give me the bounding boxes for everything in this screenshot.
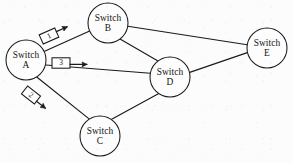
edge-b-d <box>120 39 158 61</box>
edge-b-e <box>128 26 247 45</box>
packet-1-arrow-head <box>62 24 69 31</box>
node-switch-c[interactable] <box>80 116 120 156</box>
node-switch-b[interactable] <box>88 3 128 43</box>
edge-c-d <box>111 94 159 120</box>
edge-d-e <box>190 53 248 73</box>
packet-1-group[interactable] <box>39 23 70 44</box>
packet-1-box <box>39 28 59 44</box>
packet-2-group[interactable] <box>21 86 49 111</box>
edge-group <box>37 26 248 119</box>
packet-3-box <box>52 58 70 68</box>
diagram-svg <box>0 0 293 163</box>
node-switch-d[interactable] <box>150 57 190 97</box>
packet-2-box <box>21 86 40 104</box>
packet-3-arrow-head <box>82 62 87 67</box>
packet-3-group[interactable] <box>52 58 87 68</box>
edge-a-c <box>37 77 90 119</box>
node-group <box>6 3 287 156</box>
node-switch-e[interactable] <box>247 28 287 68</box>
node-switch-a[interactable] <box>6 40 46 80</box>
network-diagram-canvas: Switch A Switch B Switch C Switch D Swit… <box>0 0 293 163</box>
